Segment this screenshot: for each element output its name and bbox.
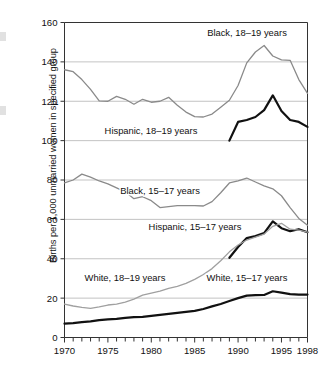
x-axis-ticks bbox=[65, 338, 308, 343]
hispanic-18-19-label: Hispanic, 18–19 years bbox=[105, 125, 198, 136]
series-line-black-15-17-years bbox=[65, 174, 308, 225]
series-line-white-15-17-years bbox=[65, 291, 308, 323]
series-line-black-18-19-years bbox=[65, 46, 308, 117]
x-tick-label-1970: 1970 bbox=[54, 345, 75, 356]
gridlines bbox=[65, 23, 308, 299]
x-tick-label-1980: 1980 bbox=[141, 345, 162, 356]
x-tick-label-1985: 1985 bbox=[184, 345, 205, 356]
black-15-17-label: Black, 15–17 years bbox=[120, 185, 200, 196]
chart-figure: Births per 1,000 unmarried women in spec… bbox=[0, 0, 331, 370]
x-tick-label-1990: 1990 bbox=[227, 345, 248, 356]
series-line-white-18-19-years bbox=[65, 223, 308, 308]
edge-artifact-bottom bbox=[0, 106, 6, 115]
white-15-17-label: White, 15–17 years bbox=[207, 272, 288, 283]
hispanic-15-17-label: Hispanic, 15–17 years bbox=[149, 221, 242, 232]
white-18-19-label: White, 18–19 years bbox=[85, 272, 166, 283]
x-tick-label-1998: 1998 bbox=[297, 345, 318, 356]
edge-artifact-top bbox=[0, 32, 6, 41]
series-line-hispanic-18-19-years bbox=[229, 95, 307, 140]
x-tick-labels: 1970197519801985199019951998 bbox=[54, 345, 318, 356]
x-tick-label-1995: 1995 bbox=[271, 345, 292, 356]
y-axis-label: Births per 1,000 unmarried women in spec… bbox=[47, 6, 58, 306]
black-18-19-label: Black, 18–19 years bbox=[207, 27, 287, 38]
series-annotations: Black, 18–19 yearsBlack, 18–19 yearsHisp… bbox=[85, 27, 288, 283]
x-tick-label-1975: 1975 bbox=[97, 345, 118, 356]
y-tick-label-0: 0 bbox=[52, 332, 57, 343]
